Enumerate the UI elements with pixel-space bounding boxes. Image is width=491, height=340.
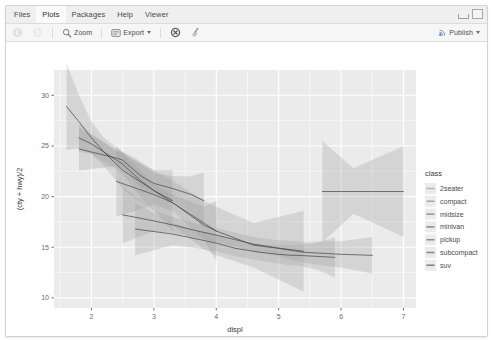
minimize-pane-icon[interactable] (458, 14, 469, 19)
x-axis-label: displ (227, 325, 243, 334)
remove-plot-button[interactable] (168, 26, 183, 40)
toolbar-left-group: Zoom Export (10, 24, 203, 41)
export-button[interactable]: Export (109, 26, 153, 40)
toolbar-right-group: Publish (435, 24, 482, 41)
y-tick-label: 10 (41, 294, 49, 301)
legend-label-compact: compact (440, 198, 467, 206)
ggplot-chart: 2345671015202530 displ (cty + hwy)/2 cla… (6, 42, 487, 336)
tab-viewer[interactable]: Viewer (139, 6, 174, 23)
zoom-button[interactable]: Zoom (60, 26, 94, 40)
forward-arrow-icon (32, 27, 43, 38)
x-tick-label: 6 (339, 313, 343, 320)
y-tick-label: 30 (41, 92, 49, 99)
remove-circle-icon (170, 27, 181, 38)
back-button[interactable] (10, 26, 25, 40)
export-button-label: Export (123, 29, 144, 36)
x-tick-label: 2 (89, 313, 93, 320)
toolbar-separator-3 (160, 28, 161, 38)
forward-button[interactable] (30, 26, 45, 40)
tab-list: Files Plots Packages Help Viewer (8, 6, 175, 23)
x-tick-label: 5 (277, 313, 281, 320)
y-axis-label: (cty + hwy)/2 (15, 168, 24, 211)
legend-label-subcompact: subcompact (440, 249, 478, 257)
legend-label-suv: suv (440, 262, 451, 269)
maximize-pane-icon[interactable] (472, 9, 483, 19)
legend-label-2seater: 2seater (440, 185, 464, 192)
legend-label-midsize: midsize (440, 211, 464, 218)
y-tick-label: 20 (41, 193, 49, 200)
legend-title: class (425, 169, 442, 178)
plot-panel (54, 63, 416, 308)
legend-label-minivan: minivan (440, 223, 464, 230)
x-tick-label: 3 (152, 313, 156, 320)
publish-icon (437, 28, 447, 38)
tab-plots[interactable]: Plots (36, 6, 65, 23)
plots-toolbar: Zoom Export (6, 24, 487, 42)
magnifier-icon (62, 28, 72, 38)
broom-icon (190, 27, 201, 38)
publish-chevron-down-icon (476, 31, 480, 34)
publish-button[interactable]: Publish (435, 26, 482, 40)
clear-all-plots-button[interactable] (188, 26, 203, 40)
publish-button-label: Publish (449, 29, 473, 36)
plot-display-area: 2345671015202530 displ (cty + hwy)/2 cla… (6, 42, 487, 336)
x-tick-label: 4 (214, 313, 218, 320)
zoom-button-label: Zoom (74, 29, 92, 36)
window-controls (458, 9, 483, 19)
export-icon (111, 28, 121, 38)
toolbar-separator-2 (101, 28, 102, 38)
legend-label-pickup: pickup (440, 236, 460, 244)
tab-files[interactable]: Files (8, 6, 36, 23)
x-tick-label: 7 (402, 313, 406, 320)
chevron-down-icon (147, 31, 151, 34)
y-tick-label: 25 (41, 142, 49, 149)
pane-tab-bar: Files Plots Packages Help Viewer (6, 6, 487, 24)
back-arrow-icon (12, 27, 23, 38)
plots-pane-window: Files Plots Packages Help Viewer (5, 5, 488, 337)
y-tick-label: 15 (41, 244, 49, 251)
toolbar-separator-1 (52, 28, 53, 38)
tab-packages[interactable]: Packages (66, 6, 112, 23)
tab-help[interactable]: Help (111, 6, 139, 23)
